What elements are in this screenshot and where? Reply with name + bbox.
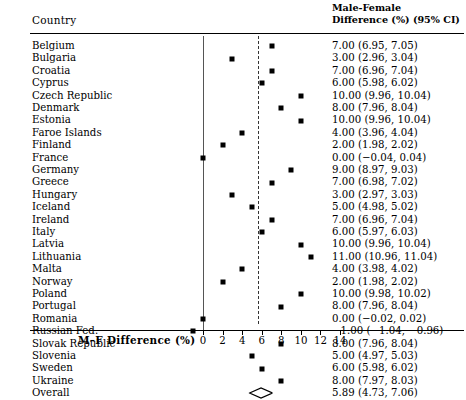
row-effect-value: 2.00 (1.98, 2.02) <box>332 276 418 288</box>
effect-marker <box>269 217 274 222</box>
row-label: Faroe Islands <box>32 127 102 139</box>
effect-marker <box>308 255 313 260</box>
row-effect-value: 6.00 (5.98, 6.02) <box>332 362 418 374</box>
row-effect-value: 10.00 (9.96, 10.04) <box>332 114 431 126</box>
effect-marker <box>201 155 206 160</box>
row-effect-value: 8.00 (7.97, 8.03) <box>332 375 418 387</box>
effect-marker <box>269 44 274 49</box>
row-label: Estonia <box>32 114 71 126</box>
row-label: Overall <box>32 387 70 399</box>
row-label: Romania <box>32 313 77 325</box>
row-effect-value: 0.00 (−0.04, 0.04) <box>332 152 426 164</box>
x-axis-tick-label: 4 <box>239 335 245 346</box>
row-label: Denmark <box>32 102 80 114</box>
row-effect-value: 7.00 (6.96, 7.04) <box>332 214 418 226</box>
row-effect-value: 10.00 (9.98, 10.02) <box>332 288 431 300</box>
row-effect-value: 5.00 (4.98, 5.02) <box>332 201 418 213</box>
effect-marker <box>259 366 264 371</box>
row-label: Belgium <box>32 40 75 52</box>
header-divider <box>30 33 464 34</box>
column-header-effect: Male-Female Difference (%) (95% CI) <box>332 2 460 25</box>
effect-marker <box>298 118 303 123</box>
x-axis-tick-label: 2 <box>219 335 225 346</box>
x-axis-tick-label: 6 <box>258 335 264 346</box>
row-effect-value: 7.00 (6.98, 7.02) <box>332 176 418 188</box>
row-effect-value: 4.00 (3.98, 4.02) <box>332 263 418 275</box>
row-label: Hungary <box>32 189 77 201</box>
row-effect-value: 5.89 (4.73, 7.06) <box>332 387 418 399</box>
effect-marker <box>249 205 254 210</box>
effect-marker <box>298 292 303 297</box>
row-effect-value: 3.00 (2.97, 3.03) <box>332 189 418 201</box>
effect-marker <box>249 354 254 359</box>
row-effect-value: 11.00 (10.96, 11.04) <box>332 251 437 263</box>
row-label: Lithuania <box>32 251 81 263</box>
effect-marker <box>259 230 264 235</box>
effect-marker <box>230 56 235 61</box>
effect-marker <box>220 143 225 148</box>
column-header-effect-line2: Difference (%) (95% CI) <box>332 14 460 26</box>
row-effect-value: 9.00 (8.97, 9.03) <box>332 164 418 176</box>
row-label: Slovenia <box>32 350 76 362</box>
row-effect-value: 8.00 (7.96, 8.04) <box>332 300 418 312</box>
effect-marker <box>298 242 303 247</box>
row-label: Portugal <box>32 300 76 312</box>
row-label: Latvia <box>32 238 64 250</box>
row-label: Italy <box>32 226 55 238</box>
effect-marker <box>298 93 303 98</box>
summary-diamond <box>248 387 273 399</box>
row-label: Czech Republic <box>32 90 112 102</box>
effect-marker <box>230 193 235 198</box>
effect-marker <box>279 379 284 384</box>
row-label: Germany <box>32 164 79 176</box>
effect-marker <box>269 69 274 74</box>
effect-marker <box>240 131 245 136</box>
effect-marker <box>201 317 206 322</box>
effect-marker <box>289 168 294 173</box>
row-effect-value: −1.00 (−1.04, −0.96) <box>332 325 443 337</box>
row-label: Finland <box>32 139 71 151</box>
effect-marker <box>240 267 245 272</box>
x-axis-tick-label: 10 <box>294 335 307 346</box>
row-label: Ukraine <box>32 375 74 387</box>
x-axis-tick-label: 12 <box>314 335 327 346</box>
row-effect-value: 10.00 (9.96, 10.04) <box>332 238 431 250</box>
row-label: Bulgaria <box>32 52 76 64</box>
column-header-effect-line1: Male-Female <box>332 2 460 14</box>
x-axis-tick-label: 14 <box>334 335 347 346</box>
column-header-country: Country <box>32 14 76 26</box>
row-effect-value: 6.00 (5.97, 6.03) <box>332 226 418 238</box>
pooled-reference-line <box>258 36 259 324</box>
row-label: Greece <box>32 176 69 188</box>
row-effect-value: 0.00 (−0.02, 0.02) <box>332 313 426 325</box>
effect-marker <box>269 180 274 185</box>
row-effect-value: 7.00 (6.96, 7.04) <box>332 65 418 77</box>
row-label: Ireland <box>32 214 69 226</box>
row-effect-value: 7.00 (6.95, 7.05) <box>332 40 418 52</box>
row-effect-value: 10.00 (9.96, 10.04) <box>332 90 431 102</box>
row-label: Poland <box>32 288 67 300</box>
row-label: Malta <box>32 263 62 275</box>
row-label: Iceland <box>32 201 70 213</box>
row-label: Sweden <box>32 362 73 374</box>
row-effect-value: 4.00 (3.96, 4.04) <box>332 127 418 139</box>
row-label: Croatia <box>32 65 70 77</box>
row-effect-value: 2.00 (1.98, 2.02) <box>332 139 418 151</box>
row-effect-value: 6.00 (5.98, 6.02) <box>332 77 418 89</box>
x-axis-tick-label: 0 <box>200 335 206 346</box>
row-label: Norway <box>32 276 72 288</box>
null-reference-line <box>203 36 204 330</box>
effect-marker <box>259 81 264 86</box>
row-effect-value: 8.00 (7.96, 8.04) <box>332 102 418 114</box>
x-axis-tick-label: 8 <box>278 335 284 346</box>
row-label: France <box>32 152 68 164</box>
effect-marker <box>279 304 284 309</box>
effect-marker <box>279 106 284 111</box>
row-effect-value: 3.00 (2.96, 3.04) <box>332 52 418 64</box>
row-label: Cyprus <box>32 77 69 89</box>
row-effect-value: 5.00 (4.97, 5.03) <box>332 350 418 362</box>
effect-marker <box>220 279 225 284</box>
x-axis-title: M–F Difference (%) <box>78 334 196 346</box>
